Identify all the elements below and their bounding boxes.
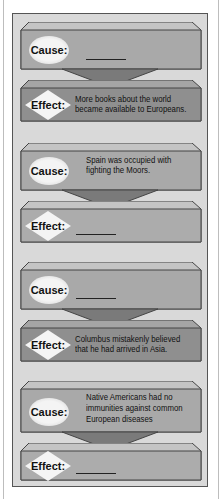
- effect-label-diamond: Effect:: [25, 330, 71, 360]
- effect-box-3: Effect: Columbus mistakenly believed tha…: [20, 320, 202, 362]
- cause-label: Cause:: [31, 284, 68, 296]
- cause-text-line: fighting the Moors.: [86, 165, 150, 175]
- cause-label: Cause:: [31, 406, 68, 418]
- answer-blank[interactable]: [76, 298, 116, 299]
- answer-blank[interactable]: [76, 234, 116, 235]
- cause-box-2: Cause: Spain was occupied with fighting …: [20, 143, 202, 191]
- effect-label: Effect:: [31, 220, 65, 232]
- answer-blank[interactable]: [76, 473, 116, 474]
- cause-box-4: Cause: Native Americans had no immunitie…: [20, 381, 202, 433]
- effect-label-diamond: Effect:: [25, 451, 71, 481]
- cause-label-oval: Cause:: [29, 398, 69, 426]
- effect-label: Effect:: [31, 460, 65, 472]
- effect-box-2: Effect:: [20, 201, 202, 243]
- cause-label-oval: Cause:: [29, 36, 69, 64]
- cause-label-oval: Cause:: [29, 276, 69, 304]
- cause-label-oval: Cause:: [29, 157, 69, 185]
- cause-text-line: immunities against common: [86, 403, 183, 413]
- effect-label: Effect:: [31, 99, 65, 111]
- effect-label: Effect:: [31, 339, 65, 351]
- effect-box-4: Effect:: [20, 443, 202, 481]
- effect-label-diamond: Effect:: [25, 90, 71, 120]
- effect-label-diamond: Effect:: [25, 211, 71, 241]
- answer-blank[interactable]: [86, 59, 126, 60]
- cause-label: Cause:: [31, 44, 68, 56]
- cause-text-line: Native Americans had no: [86, 392, 173, 402]
- cause-box-3: Cause:: [20, 262, 202, 310]
- effect-text-line: became available to Europeans.: [75, 104, 186, 114]
- effect-box-1: Effect: More books about the world becam…: [20, 80, 202, 122]
- cause-label: Cause:: [31, 165, 68, 177]
- effect-text-line: that he had arrived in Asia.: [75, 344, 167, 354]
- cause-box-1: Cause:: [20, 22, 202, 70]
- cause-text-line: European diseases: [86, 414, 153, 424]
